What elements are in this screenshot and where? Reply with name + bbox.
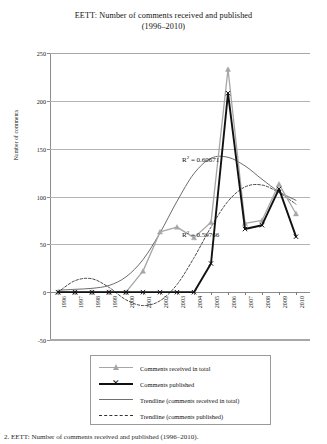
- y-tick-label--50: -50: [38, 337, 46, 344]
- chart-title-line1: EETT: Number of comments received and pu…: [75, 11, 253, 20]
- legend-label-trend-published: Trendline (comments published): [140, 413, 223, 420]
- chart-title: EETT: Number of comments received and pu…: [0, 10, 327, 32]
- legend-label-trend-received: Trendline (comments received in total): [140, 397, 240, 404]
- plot-area: 250200150100500-50 199619971998199920002…: [50, 53, 310, 340]
- legend-item-published: ✕ Comments published: [91, 376, 270, 392]
- y-tick-label-250: 250: [37, 50, 46, 57]
- legend-swatch-published: ✕: [97, 378, 135, 390]
- gridline--50: [50, 340, 310, 341]
- y-axis-label: Number of comments: [13, 75, 19, 195]
- y-tick-label-200: 200: [37, 97, 46, 104]
- y-tick-label-0: 0: [43, 289, 46, 296]
- trendline-published-group: [58, 184, 296, 305]
- legend-item-trend-published: Trendline (comments published): [91, 408, 270, 424]
- series-received-group: [55, 67, 298, 295]
- y-tick-mark--50: [47, 340, 50, 341]
- legend-label-received: Comments received in total: [140, 365, 210, 372]
- x-marker-icon: ✕: [112, 379, 120, 387]
- y-tick-label-100: 100: [37, 193, 46, 200]
- chart-title-line2: (1996–2010): [0, 21, 327, 32]
- legend-item-trend-received: Trendline (comments received in total): [91, 392, 270, 408]
- triangle-marker-icon: [113, 364, 119, 370]
- legend-swatch-trend-published: [97, 410, 135, 422]
- r2-annotation-received: R2 = 0.60671: [182, 155, 219, 164]
- r2-published-value: = 0.59766: [189, 231, 219, 239]
- legend-label-published: Comments published: [140, 381, 194, 388]
- series-published-group: [56, 91, 298, 294]
- y-tick-label-150: 150: [37, 145, 46, 152]
- series-plot: [50, 53, 310, 340]
- legend-swatch-received: [97, 362, 135, 374]
- y-tick-label-50: 50: [40, 241, 46, 248]
- r2-annotation-published: R2 = 0.59766: [182, 230, 219, 239]
- legend-item-received: Comments received in total: [91, 360, 270, 376]
- r2-received-value: = 0.60671: [189, 156, 219, 164]
- figure-caption: 2. EETT: Number of comments received and…: [4, 433, 324, 442]
- legend-swatch-trend-received: [97, 394, 135, 406]
- chart-legend: Comments received in total ✕ Comments pu…: [90, 355, 271, 425]
